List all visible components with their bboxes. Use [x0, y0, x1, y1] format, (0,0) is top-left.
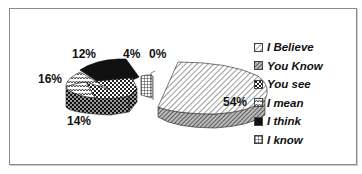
- legend-item-i-believe: I Believe: [254, 38, 323, 57]
- legend-label: I Believe: [267, 41, 314, 53]
- slice-label-0: 0%: [149, 47, 166, 61]
- legend-label: You Know: [267, 60, 323, 72]
- legend-item-you-know: You Know: [254, 57, 323, 76]
- grid-swatch-icon: [254, 135, 263, 144]
- legend-item-i-mean: I mean: [254, 94, 323, 113]
- slice-label-4: 4%: [123, 47, 140, 61]
- diag-dense-swatch-icon: [254, 61, 263, 70]
- legend-label: I know: [267, 134, 303, 146]
- solid-black-swatch-icon: [254, 117, 263, 126]
- legend-label: I think: [267, 115, 301, 127]
- slice-label-14: 14%: [67, 114, 91, 128]
- slice-label-54: 54%: [223, 95, 247, 109]
- legend-label: You see: [267, 78, 311, 90]
- slice-label-16: 16%: [38, 72, 62, 86]
- legend-item-i-think: I think: [254, 112, 323, 131]
- zigzag-swatch-icon: [254, 98, 263, 107]
- checker-swatch-icon: [254, 80, 263, 89]
- legend-item-you-see: You see: [254, 75, 323, 94]
- slice-label-12: 12%: [72, 47, 96, 61]
- legend-item-i-know: I know: [254, 131, 323, 150]
- legend: I Believe You Know You see I mean I thin…: [254, 38, 323, 149]
- diag-light-swatch-icon: [254, 43, 263, 52]
- legend-label: I mean: [267, 97, 303, 109]
